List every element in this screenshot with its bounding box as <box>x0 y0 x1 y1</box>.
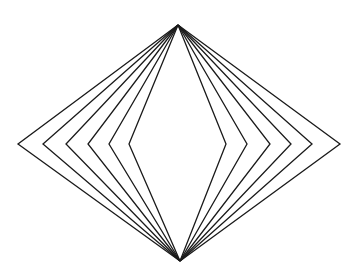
left-chevron-group <box>18 25 180 261</box>
right-chevron-group <box>178 25 340 261</box>
left-chevron-line-4 <box>88 25 180 261</box>
left-chevron-line-2 <box>43 25 180 261</box>
nested-diamond-diagram <box>0 0 361 280</box>
right-chevron-line-6 <box>178 25 340 261</box>
left-chevron-line-1 <box>18 25 180 261</box>
right-chevron-line-4 <box>178 25 291 261</box>
left-chevron-line-6 <box>129 25 180 261</box>
